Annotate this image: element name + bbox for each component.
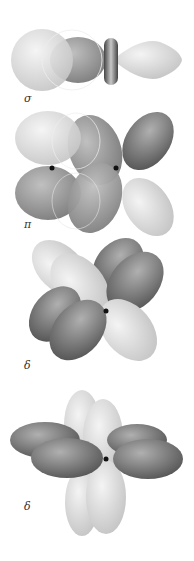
sigma-label: σ — [24, 92, 32, 105]
pi-lobe-lower-right — [112, 168, 185, 246]
sigma-right-lobe — [113, 41, 182, 79]
delta2-nucleus — [104, 457, 109, 462]
delta1-nucleus — [104, 309, 109, 314]
sigma-torus — [104, 38, 118, 85]
orbital-diagram — [0, 0, 194, 561]
delta2-lobe-left-front — [31, 438, 103, 478]
pi-panel — [15, 102, 184, 246]
delta1-panel — [18, 228, 175, 372]
pi-nucleus-right — [114, 166, 119, 171]
pi-label: π — [24, 218, 31, 231]
delta2-panel — [10, 390, 183, 536]
pi-lobe-upper-left — [15, 111, 81, 165]
sigma-panel — [11, 29, 182, 91]
pi-nucleus-left — [50, 166, 55, 171]
delta2-lobe-right-front — [113, 439, 183, 479]
delta2-label: δ — [24, 500, 31, 513]
pi-lobe-upper-right — [112, 102, 185, 180]
delta1-label: δ — [24, 359, 31, 372]
